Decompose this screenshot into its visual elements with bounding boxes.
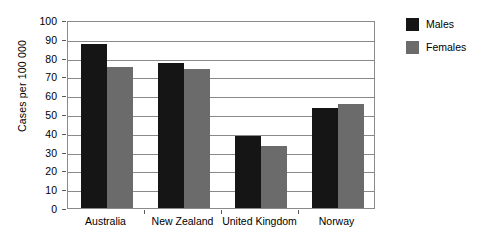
y-axis-tick-mark bbox=[62, 171, 66, 172]
y-axis-tick-label: 80 bbox=[29, 54, 57, 65]
y-axis-tick-label: 70 bbox=[29, 72, 57, 83]
legend: MalesFemales bbox=[406, 18, 466, 64]
legend-label: Males bbox=[426, 19, 454, 30]
x-axis-tick-mark bbox=[144, 210, 145, 214]
x-axis-tick-label: New Zealand bbox=[144, 216, 221, 227]
y-axis-tick-label: 60 bbox=[29, 91, 57, 102]
y-axis-tick-mark bbox=[62, 40, 66, 41]
legend-item: Males bbox=[406, 18, 466, 31]
y-axis-tick-label: 20 bbox=[29, 166, 57, 177]
x-axis-tick-label: Australia bbox=[67, 216, 144, 227]
y-axis-tick-mark bbox=[62, 96, 66, 97]
x-axis-tick-mark bbox=[298, 210, 299, 214]
x-axis-tick-label: Norway bbox=[298, 216, 375, 227]
y-axis-tick-label: 0 bbox=[29, 204, 57, 215]
bar-chart: Cases per 100 000 0102030405060708090100… bbox=[0, 0, 494, 242]
x-axis-tick-mark bbox=[221, 210, 222, 214]
y-axis-tick-mark bbox=[62, 21, 66, 22]
y-axis-tick-mark bbox=[62, 77, 66, 78]
y-axis-tick-label: 40 bbox=[29, 129, 57, 140]
legend-item: Females bbox=[406, 41, 466, 54]
y-axis-tick-label: 90 bbox=[29, 35, 57, 46]
y-axis-tick-mark bbox=[62, 59, 66, 60]
y-axis-tick-mark bbox=[62, 209, 66, 210]
y-axis-tick-label: 30 bbox=[29, 148, 57, 159]
legend-label: Females bbox=[426, 42, 466, 53]
x-axis-tick-label: United Kingdom bbox=[221, 216, 298, 227]
y-axis-tick-mark bbox=[62, 134, 66, 135]
y-axis-tick-label: 10 bbox=[29, 185, 57, 196]
legend-swatch-icon bbox=[406, 18, 419, 31]
legend-swatch-icon bbox=[406, 41, 419, 54]
y-axis-tick-label: 100 bbox=[29, 16, 57, 27]
y-axis-tick-mark bbox=[62, 190, 66, 191]
y-axis-tick-mark bbox=[62, 153, 66, 154]
y-axis-tick-label: 50 bbox=[29, 110, 57, 121]
y-axis-tick-mark bbox=[62, 115, 66, 116]
